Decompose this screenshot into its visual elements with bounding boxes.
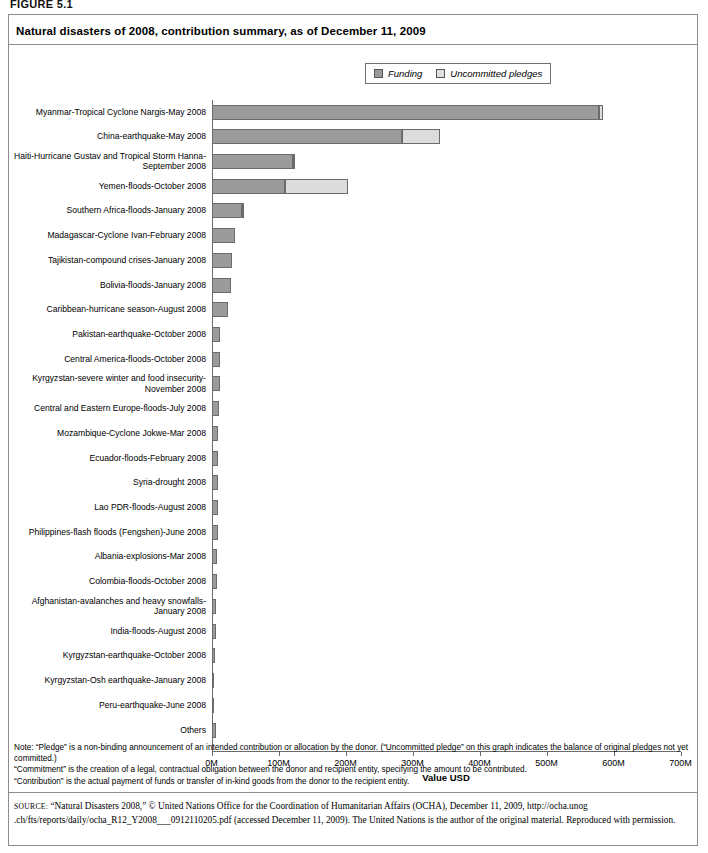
- bar-row[interactable]: [212, 253, 681, 268]
- bar-segment-funding[interactable]: [212, 253, 233, 268]
- bar-row[interactable]: [212, 105, 681, 120]
- bar-row[interactable]: [212, 352, 681, 367]
- bar-segment-funding[interactable]: [212, 327, 221, 342]
- bar-row[interactable]: [212, 624, 681, 639]
- bar-row[interactable]: [212, 228, 681, 243]
- bar-segment-funding[interactable]: [212, 228, 235, 243]
- bar-segment-funding[interactable]: [212, 203, 243, 218]
- category-label-wrap: Mozambique-Cyclone Jokwe-Mar 2008: [10, 428, 206, 439]
- bar-segment-uncommitted-pledges[interactable]: [242, 203, 244, 218]
- bar-row[interactable]: [212, 549, 681, 564]
- y-axis-category-label: India-floods-August 2008: [10, 626, 206, 637]
- category-label-wrap: Syria-drought 2008: [10, 477, 206, 488]
- bar-row[interactable]: [212, 698, 681, 713]
- category-label-wrap: Bolivia-floods-January 2008: [10, 280, 206, 291]
- bar-segment-funding[interactable]: [212, 475, 218, 490]
- bar-row[interactable]: [212, 475, 681, 490]
- y-axis-category-label: Afghanistan-avalanches and heavy snowfal…: [10, 596, 206, 617]
- bar-row[interactable]: [212, 574, 681, 589]
- category-label-wrap: Others: [10, 725, 206, 736]
- category-label-wrap: Tajikistan-compound crises-January 2008: [10, 255, 206, 266]
- bar-segment-funding[interactable]: [212, 723, 217, 738]
- bar-row[interactable]: [212, 129, 681, 144]
- bar-segment-funding[interactable]: [212, 278, 231, 293]
- bar-segment-funding[interactable]: [212, 525, 218, 540]
- bar-row[interactable]: [212, 278, 681, 293]
- bar-row[interactable]: [212, 451, 681, 466]
- bar-row[interactable]: [212, 376, 681, 391]
- y-axis-category-label: Mozambique-Cyclone Jokwe-Mar 2008: [10, 428, 206, 439]
- y-axis-category-label: Lao PDR-floods-August 2008: [10, 502, 206, 513]
- bar-segment-uncommitted-pledges[interactable]: [293, 154, 295, 169]
- category-label-wrap: Ecuador-floods-February 2008: [10, 453, 206, 464]
- bar-segment-funding[interactable]: [212, 451, 219, 466]
- chart-notes: Note: “Pledge” is a non-binding announce…: [14, 742, 690, 787]
- bar-segment-funding[interactable]: [212, 500, 218, 515]
- bar-segment-funding[interactable]: [212, 154, 293, 169]
- y-axis-category-label: Colombia-floods-October 2008: [10, 576, 206, 587]
- y-axis-category-label: Central and Eastern Europe-floods-July 2…: [10, 403, 206, 414]
- bar-segment-funding[interactable]: [212, 376, 220, 391]
- category-label-wrap: Central America-floods-October 2008: [10, 354, 206, 365]
- bar-segment-funding[interactable]: [212, 105, 599, 120]
- bar-row[interactable]: [212, 599, 681, 614]
- y-axis-category-label: Myanmar-Tropical Cyclone Nargis-May 2008: [10, 107, 206, 118]
- note-line-1: Note: “Pledge” is a non-binding announce…: [14, 742, 690, 764]
- y-axis-category-label: Madagascar-Cyclone Ivan-February 2008: [10, 230, 206, 241]
- category-label-wrap: Haiti-Hurricane Gustav and Tropical Stor…: [10, 151, 206, 172]
- source-text: “Natural Disasters 2008,” © United Natio…: [14, 801, 675, 825]
- y-axis-category-label: Kyrgyzstan-Osh earthquake-January 2008: [10, 675, 206, 686]
- bar-segment-funding[interactable]: [212, 624, 216, 639]
- bar-segment-funding[interactable]: [212, 673, 215, 688]
- category-label-wrap: Lao PDR-floods-August 2008: [10, 502, 206, 513]
- y-axis-category-label: Yemen-floods-October 2008: [10, 181, 206, 192]
- bar-segment-funding[interactable]: [212, 129, 403, 144]
- bar-row[interactable]: [212, 500, 681, 515]
- y-axis-category-label: Pakistan-earthquake-October 2008: [10, 329, 206, 340]
- bar-row[interactable]: [212, 401, 681, 416]
- category-label-wrap: Yemen-floods-October 2008: [10, 181, 206, 192]
- bar-segment-funding[interactable]: [212, 698, 214, 713]
- y-axis-category-label: China-earthquake-May 2008: [10, 131, 206, 142]
- bar-segment-funding[interactable]: [212, 401, 219, 416]
- bar-row[interactable]: [212, 179, 681, 194]
- bar-row[interactable]: [212, 327, 681, 342]
- category-label-wrap: Colombia-floods-October 2008: [10, 576, 206, 587]
- bar-segment-funding[interactable]: [212, 648, 215, 663]
- bar-segment-funding[interactable]: [212, 426, 219, 441]
- figure-page: FIGURE 5.1 Natural disasters of 2008, co…: [0, 0, 708, 853]
- note-line-2: “Commitment” is the creation of a legal,…: [14, 764, 690, 775]
- bar-segment-funding[interactable]: [212, 179, 285, 194]
- bar-segment-funding[interactable]: [212, 302, 229, 317]
- category-label-wrap: India-floods-August 2008: [10, 626, 206, 637]
- category-label-wrap: Central and Eastern Europe-floods-July 2…: [10, 403, 206, 414]
- category-label-wrap: Madagascar-Cyclone Ivan-February 2008: [10, 230, 206, 241]
- bar-segment-funding[interactable]: [212, 549, 217, 564]
- bar-segment-uncommitted-pledges[interactable]: [599, 105, 603, 120]
- bar-segment-funding[interactable]: [212, 352, 221, 367]
- bar-row[interactable]: [212, 525, 681, 540]
- y-axis-category-label: Kyrgyzstan-severe winter and food insecu…: [10, 373, 206, 394]
- category-label-wrap: Kyrgyzstan-severe winter and food insecu…: [10, 373, 206, 394]
- y-axis-category-label: Bolivia-floods-January 2008: [10, 280, 206, 291]
- y-axis-category-label: Peru-earthquake-June 2008: [10, 700, 206, 711]
- y-axis-category-label: Kyrgyzstan-earthquake-October 2008: [10, 650, 206, 661]
- y-axis-category-label: Southern Africa-floods-January 2008: [10, 205, 206, 216]
- bar-segment-uncommitted-pledges[interactable]: [285, 179, 349, 194]
- category-label-wrap: Afghanistan-avalanches and heavy snowfal…: [10, 596, 206, 617]
- bar-segment-funding[interactable]: [212, 574, 217, 589]
- note-line-3: “Contribution” is the actual payment of …: [14, 776, 690, 787]
- bar-row[interactable]: [212, 203, 681, 218]
- bar-row[interactable]: [212, 648, 681, 663]
- bar-row[interactable]: [212, 426, 681, 441]
- y-axis-category-label: Caribbean-hurricane season-August 2008: [10, 304, 206, 315]
- bar-segment-funding[interactable]: [212, 599, 217, 614]
- bar-row[interactable]: [212, 154, 681, 169]
- bar-segment-uncommitted-pledges[interactable]: [402, 129, 440, 144]
- y-axis-category-label: Syria-drought 2008: [10, 477, 206, 488]
- bar-row[interactable]: [212, 723, 681, 738]
- category-label-wrap: Kyrgyzstan-Osh earthquake-January 2008: [10, 675, 206, 686]
- bar-row[interactable]: [212, 302, 681, 317]
- bar-row[interactable]: [212, 673, 681, 688]
- category-label-wrap: Southern Africa-floods-January 2008: [10, 205, 206, 216]
